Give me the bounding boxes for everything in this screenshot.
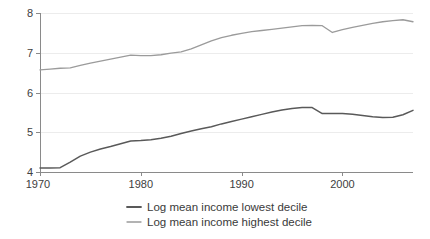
x-tick-label-2000: 2000 (330, 178, 354, 190)
y-tick-label-6: 6 (27, 87, 33, 99)
y-tick-label-5: 5 (27, 126, 33, 138)
x-tick-label-1980: 1980 (129, 178, 153, 190)
x-tick-label-1970: 1970 (26, 178, 50, 190)
chart-canvas: 45678 1970198019902000 Log mean income l… (0, 0, 430, 239)
x-tick-labels-group: 1970198019902000 (26, 172, 355, 190)
series-line-0 (40, 108, 413, 168)
line-chart-figure: 45678 1970198019902000 Log mean income l… (0, 0, 430, 239)
y-tick-labels-group: 45678 (27, 7, 40, 178)
y-tick-label-7: 7 (27, 47, 33, 59)
chart-screenshot: 45678 1970198019902000 Log mean income l… (0, 0, 430, 239)
x-tick-label-1990: 1990 (229, 178, 253, 190)
y-tick-label-8: 8 (27, 7, 33, 19)
legend-label-1: Log mean income highest decile (147, 216, 312, 228)
legend-label-0: Log mean income lowest decile (147, 201, 307, 213)
series-line-1 (40, 20, 413, 70)
y-tick-label-4: 4 (27, 166, 33, 178)
chart-legend: Log mean income lowest decileLog mean in… (127, 201, 312, 228)
